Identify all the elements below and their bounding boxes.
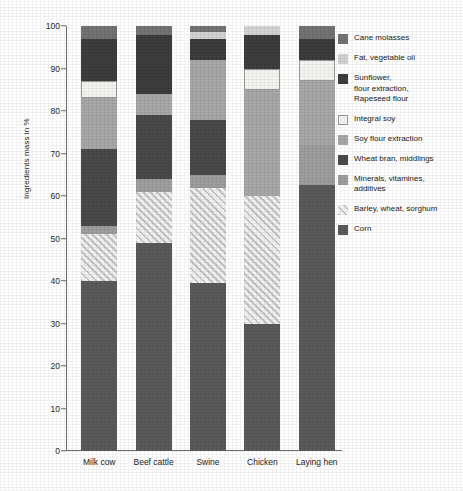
bar-segment <box>244 35 280 69</box>
bar-segment <box>81 81 117 98</box>
y-axis-tick: 90 <box>22 64 60 73</box>
bar-segment <box>190 188 226 284</box>
tick-mark <box>61 451 66 452</box>
bar-segment <box>81 226 117 235</box>
bar-swine[interactable] <box>190 26 226 451</box>
legend-item[interactable]: Corn <box>338 224 460 235</box>
bar-segment <box>81 281 117 451</box>
bar-segment <box>136 192 172 243</box>
y-axis-tick: 0 <box>22 447 60 456</box>
stacked-bar-chart: Ingredients mass in % 010203040506070809… <box>0 0 463 491</box>
bar-segment <box>190 60 226 120</box>
legend-item[interactable]: Cane molasses <box>338 33 460 44</box>
plot-area: 0102030405060708090100 Milk cowBeef catt… <box>66 26 338 451</box>
bar-chicken[interactable] <box>244 26 280 451</box>
bar-segment <box>244 324 280 452</box>
y-axis-tick: 60 <box>22 192 60 201</box>
tick-mark <box>61 408 66 409</box>
legend-item-label: Minerals, vitamines,additives <box>354 174 425 195</box>
bar-segment <box>299 39 335 60</box>
tick-mark <box>61 323 66 324</box>
bar-segment <box>244 90 280 196</box>
bar-segment <box>136 243 172 451</box>
legend-swatch-icon <box>338 54 348 64</box>
bar-segment <box>299 185 335 451</box>
tick-mark <box>61 196 66 197</box>
legend-item[interactable]: Fat, vegetable oil <box>338 53 460 64</box>
legend-item[interactable]: Integral soy <box>338 114 460 125</box>
bar-segment <box>136 26 172 35</box>
bar-segment <box>299 26 335 39</box>
y-axis-line <box>66 26 67 451</box>
tick-mark <box>61 366 66 367</box>
legend-item-label: Soy flour extraction <box>354 134 422 145</box>
bar-segment <box>190 39 226 60</box>
tick-mark <box>61 238 66 239</box>
legend-item[interactable]: Soy flour extraction <box>338 134 460 145</box>
y-axis-tick: 80 <box>22 107 60 116</box>
tick-mark <box>61 26 66 27</box>
legend-item-label: Integral soy <box>354 114 395 125</box>
y-axis-tick: 30 <box>22 319 60 328</box>
y-axis-tick: 100 <box>22 22 60 31</box>
bar-segment <box>81 26 117 39</box>
bar-segment <box>81 149 117 226</box>
legend-item[interactable]: Wheat bran, middlings <box>338 154 460 165</box>
bar-segment <box>299 60 335 81</box>
bar-segment <box>299 145 335 185</box>
bar-segment <box>244 26 280 35</box>
legend-swatch-icon <box>338 74 348 84</box>
y-axis-tick: 50 <box>22 234 60 243</box>
legend-item-label: Fat, vegetable oil <box>354 53 415 64</box>
bar-segment <box>136 35 172 95</box>
bar-milk-cow[interactable] <box>81 26 117 451</box>
legend-swatch-icon <box>338 155 348 165</box>
legend-swatch-icon <box>338 115 348 125</box>
tick-mark <box>61 111 66 112</box>
legend-swatch-icon <box>338 34 348 44</box>
legend-item[interactable]: Minerals, vitamines,additives <box>338 174 460 195</box>
y-axis-tick: 20 <box>22 362 60 371</box>
legend-swatch-icon <box>338 225 348 235</box>
legend: Cane molassesFat, vegetable oilSunflower… <box>338 33 460 244</box>
bar-segment <box>299 81 335 145</box>
tick-mark <box>61 281 66 282</box>
bar-segment <box>81 234 117 281</box>
bar-segment <box>244 196 280 324</box>
legend-item-label: Barley, wheat, sorghum <box>354 204 437 215</box>
legend-item[interactable]: Barley, wheat, sorghum <box>338 204 460 215</box>
legend-swatch-icon <box>338 135 348 145</box>
legend-swatch-icon <box>338 175 348 185</box>
legend-item-label: Cane molasses <box>354 33 409 44</box>
bar-segment <box>190 283 226 451</box>
tick-mark <box>61 153 66 154</box>
legend-swatch-icon <box>338 205 348 215</box>
legend-item-label: Wheat bran, middlings <box>354 154 434 165</box>
legend-item-label: Corn <box>354 224 371 235</box>
x-axis-label: Laying hen <box>272 457 362 467</box>
bar-segment <box>81 98 117 149</box>
bar-segment <box>190 175 226 188</box>
y-axis-tick: 40 <box>22 277 60 286</box>
bar-segment <box>136 179 172 192</box>
tick-mark <box>61 68 66 69</box>
bar-segment <box>81 39 117 82</box>
legend-item-label: Sunflower,flour extraction,Rapeseed flou… <box>354 73 409 105</box>
legend-item[interactable]: Sunflower,flour extraction,Rapeseed flou… <box>338 73 460 105</box>
bar-beef-cattle[interactable] <box>136 26 172 451</box>
bar-segment <box>136 115 172 179</box>
bar-segment <box>136 94 172 115</box>
bar-segment <box>190 120 226 175</box>
y-axis-tick: 10 <box>22 404 60 413</box>
bar-laying-hen[interactable] <box>299 26 335 451</box>
bar-segment <box>244 69 280 90</box>
y-axis-tick: 70 <box>22 149 60 158</box>
